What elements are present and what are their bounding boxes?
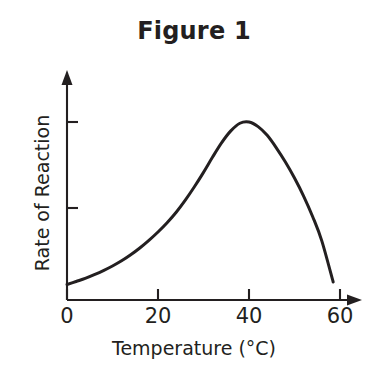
x-tick-label-60: 60	[320, 306, 360, 327]
reaction-rate-curve	[67, 122, 333, 285]
x-tick-label-40: 40	[229, 306, 269, 327]
x-tick-label-0: 0	[47, 306, 87, 327]
x-tick-label-20: 20	[138, 306, 178, 327]
x-axis-title: Temperature (°C)	[0, 337, 388, 359]
y-axis-title: Rate of Reaction	[31, 93, 53, 293]
figure-container: Figure 1 0 20 40 60 Temperature (°C) Rat…	[0, 0, 388, 382]
y-axis-arrow-icon	[62, 70, 73, 85]
